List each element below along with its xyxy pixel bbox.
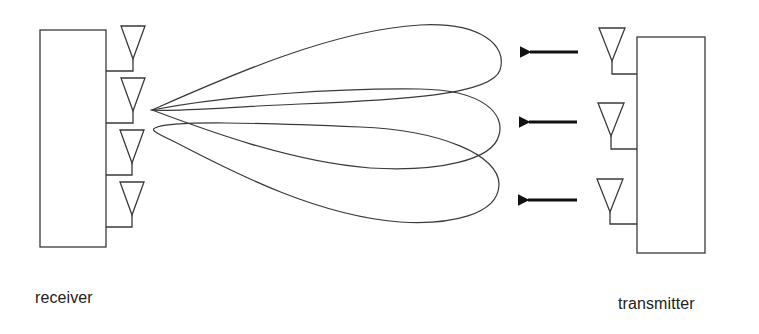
transmitter-antenna-1 <box>599 28 637 74</box>
antenna-feed-line <box>106 111 133 123</box>
receiver-antenna-4 <box>106 182 144 227</box>
antenna-icon <box>599 28 625 61</box>
receiver-antenna-3 <box>106 130 144 175</box>
antenna-feed-line <box>610 212 637 224</box>
receiver-label: receiver <box>35 289 93 307</box>
beam-lobes <box>152 25 501 223</box>
beam-lobe-lower <box>154 123 499 223</box>
antenna-icon <box>121 78 145 111</box>
antenna-feed-line <box>106 163 132 175</box>
transmitter-box <box>637 37 705 253</box>
antenna-icon <box>597 179 623 212</box>
antenna-feed-line <box>612 61 637 74</box>
receiver-antenna-1 <box>106 26 145 71</box>
antenna-icon <box>120 130 144 163</box>
transmitter-antenna-2 <box>598 103 637 149</box>
receiver-box <box>40 30 106 247</box>
receiver-antenna-2 <box>106 78 145 123</box>
beamforming-diagram <box>0 0 759 334</box>
beam-lobe-upper <box>152 25 501 111</box>
antenna-feed-line <box>106 59 133 71</box>
transmitter-group <box>597 28 705 253</box>
antenna-icon <box>598 103 624 136</box>
antenna-feed-line <box>611 136 637 149</box>
receiver-group <box>40 26 145 247</box>
antenna-icon <box>121 26 145 59</box>
antenna-feed-line <box>106 215 132 227</box>
transmitter-antenna-3 <box>597 179 637 224</box>
antenna-icon <box>120 182 144 215</box>
signal-arrows <box>528 52 578 200</box>
transmitter-label: transmitter <box>618 295 695 313</box>
